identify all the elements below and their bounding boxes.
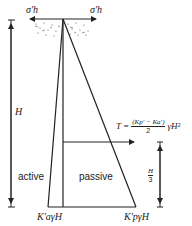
thrust-equation: T = (Kp′ − Ka′) 2 γH² <box>116 119 180 134</box>
third-height-label: H 3 <box>148 168 153 183</box>
earth-pressure-diagram <box>0 0 192 226</box>
stress-left-label: σ′h <box>26 5 38 15</box>
passive-label: passive <box>79 172 113 182</box>
height-label: H <box>15 107 22 117</box>
stress-right-label: σ′h <box>90 5 102 15</box>
thrust-fraction: (Kp′ − Ka′) 2 <box>131 119 165 134</box>
active-base-label: K′aγH <box>37 212 62 222</box>
active-label: active <box>18 172 44 182</box>
passive-base-label: K′pγH <box>124 212 149 222</box>
